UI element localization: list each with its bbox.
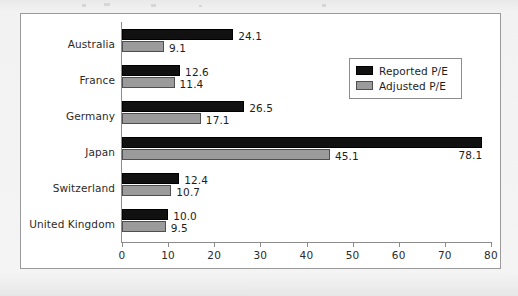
bar-adjusted <box>122 149 330 160</box>
bar-adjusted <box>122 221 166 232</box>
category-label: France <box>0 74 115 86</box>
plot-area: 01020304050607080 AustraliaFranceGermany… <box>21 14 500 268</box>
legend-swatch-reported-icon <box>356 66 373 75</box>
x-axis-tick <box>399 242 400 247</box>
bar-reported <box>122 29 233 40</box>
x-axis-tick-label: 50 <box>333 249 373 261</box>
bar-value-reported: 12.6 <box>185 66 209 78</box>
legend-entry-adjusted: Adjusted P/E <box>356 78 455 93</box>
bar-reported <box>122 209 168 220</box>
chart-legend: Reported P/E Adjusted P/E <box>349 58 462 99</box>
x-axis-tick-label: 0 <box>102 249 142 261</box>
chart-figure-frame: 01020304050607080 AustraliaFranceGermany… <box>20 13 501 269</box>
legend-entry-reported: Reported P/E <box>356 63 455 78</box>
category-label: Germany <box>0 110 115 122</box>
bar-value-reported: 26.5 <box>249 102 273 114</box>
bar-value-reported: 24.1 <box>238 30 262 42</box>
x-axis-tick-label: 20 <box>194 249 234 261</box>
cropped-caption-strip <box>0 0 518 11</box>
legend-label-adjusted: Adjusted P/E <box>379 80 446 92</box>
bar-reported <box>122 173 179 184</box>
x-axis-tick <box>214 242 215 247</box>
bar-value-adjusted: 10.7 <box>176 186 200 198</box>
bar-value-adjusted: 9.1 <box>169 42 186 54</box>
bar-adjusted <box>122 77 175 88</box>
x-axis-tick-label: 30 <box>240 249 280 261</box>
x-axis-tick-label: 70 <box>425 249 465 261</box>
bar-value-reported: 10.0 <box>173 210 197 222</box>
bar-value-adjusted: 11.4 <box>180 78 204 90</box>
x-axis-tick <box>168 242 169 247</box>
bar-adjusted <box>122 41 164 52</box>
x-axis-tick <box>491 242 492 247</box>
bar-value-adjusted: 17.1 <box>206 114 230 126</box>
bar-value-adjusted: 9.5 <box>171 222 188 234</box>
x-axis-tick-label: 80 <box>471 249 511 261</box>
x-axis-tick <box>122 242 123 247</box>
x-axis-tick-label: 40 <box>287 249 327 261</box>
category-label: Australia <box>0 38 115 50</box>
legend-swatch-adjusted-icon <box>356 81 373 90</box>
x-axis-tick <box>260 242 261 247</box>
x-axis-tick-label: 60 <box>379 249 419 261</box>
category-label: Switzerland <box>0 182 115 194</box>
bar-adjusted <box>122 113 201 124</box>
category-label: Japan <box>0 146 115 158</box>
legend-label-reported: Reported P/E <box>379 65 448 77</box>
bar-value-reported: 78.1 <box>438 149 482 161</box>
x-axis-tick <box>445 242 446 247</box>
bar-reported <box>122 65 180 76</box>
bar-value-reported: 12.4 <box>184 174 208 186</box>
bar-reported <box>122 137 482 148</box>
bar-reported <box>122 101 244 112</box>
x-axis-tick <box>307 242 308 247</box>
bar-adjusted <box>122 185 171 196</box>
x-axis-tick-label: 10 <box>148 249 188 261</box>
category-label: United Kingdom <box>0 218 115 230</box>
bar-value-adjusted: 45.1 <box>335 150 359 162</box>
x-axis-tick <box>353 242 354 247</box>
